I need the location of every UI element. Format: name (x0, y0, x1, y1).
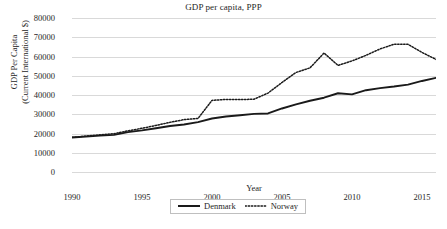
x-axis-tick-label: 1995 (122, 192, 162, 202)
legend-label: Denmark (204, 201, 236, 211)
x-axis-tick-label: 1990 (52, 192, 92, 202)
legend-item-denmark[interactable]: Denmark (178, 201, 236, 211)
legend-swatch-denmark-icon (178, 202, 200, 210)
y-axis-tick-label: 50000 (11, 71, 55, 81)
series-lines (72, 18, 436, 172)
x-axis-title: Year (72, 183, 436, 193)
series-line-denmark (72, 78, 436, 138)
series-line-norway (72, 44, 436, 137)
y-axis-tick-label: 30000 (11, 109, 55, 119)
chart-title: GDP per capita, PPP (0, 2, 447, 12)
plot-area: 8000070000600005000040000300002000010000… (72, 18, 436, 172)
legend-swatch-norway-icon (245, 202, 267, 210)
y-axis-tick-label: 70000 (11, 32, 55, 42)
y-axis-tick-label: 60000 (11, 52, 55, 62)
chart-container: GDP per capita, PPP GDP Per Capita (Curr… (0, 0, 447, 229)
y-axis-tick-label: 40000 (11, 90, 55, 100)
y-axis-tick-label: 20000 (11, 129, 55, 139)
y-axis-tick-label: 80000 (11, 13, 55, 23)
y-axis-tick-label: 0 (11, 167, 55, 177)
x-axis-tick-label: 2010 (332, 192, 372, 202)
y-axis-title-line1: GDP Per Capita (9, 35, 19, 89)
legend-label: Norway (271, 201, 298, 211)
gridline (72, 172, 436, 173)
chart-legend: DenmarkNorway (170, 199, 306, 214)
x-axis-tick-label: 2015 (402, 192, 442, 202)
y-axis-tick-label: 10000 (11, 148, 55, 158)
legend-item-norway[interactable]: Norway (245, 201, 298, 211)
